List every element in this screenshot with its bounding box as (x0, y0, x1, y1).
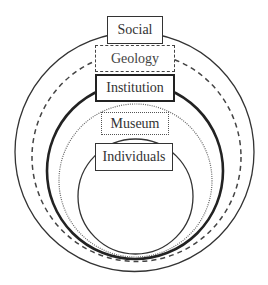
social-label-box: Social (107, 16, 163, 44)
social-label: Social (118, 23, 153, 37)
institution-label: Institution (106, 81, 164, 95)
institution-label-box: Institution (95, 74, 175, 102)
geology-label-box: Geology (95, 45, 175, 72)
museum-label-box: Museum (101, 112, 169, 135)
individuals-label: Individuals (103, 150, 166, 164)
individuals-label-box: Individuals (95, 143, 173, 171)
museum-label: Museum (111, 117, 160, 131)
geology-label: Geology (111, 52, 159, 66)
institution-circle (47, 83, 223, 259)
